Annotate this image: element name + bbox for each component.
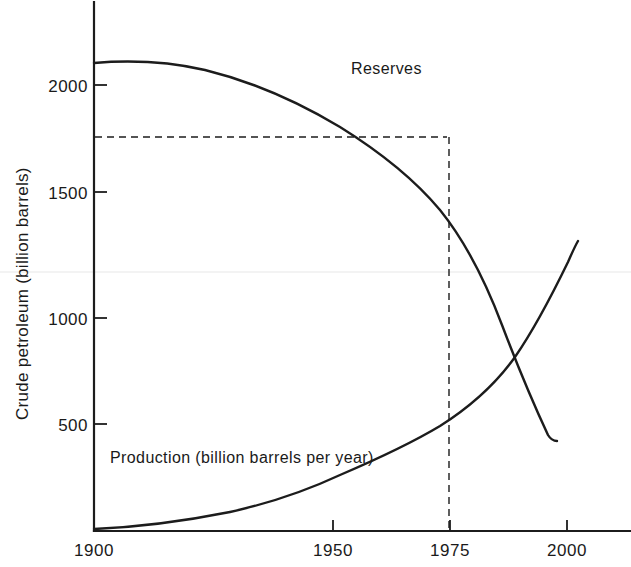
series-curve-reserves [94, 62, 557, 441]
y-axis-title: Crude petroleum (billion barrels) [13, 167, 32, 420]
y-tick-label-500: 500 [58, 416, 88, 435]
x-tick-label-1950: 1950 [313, 541, 353, 560]
chart-figure: 2000 1500 1000 500 1900 1950 1975 2000 C… [0, 0, 631, 567]
y-tick-label-2000: 2000 [48, 77, 88, 96]
chart-svg: 2000 1500 1000 500 1900 1950 1975 2000 C… [0, 0, 631, 567]
x-tick-label-1975: 1975 [430, 541, 470, 560]
y-tick-label-1500: 1500 [48, 184, 88, 203]
series-curve-production [94, 241, 578, 529]
y-tick-label-1000: 1000 [48, 310, 88, 329]
series-label-production: Production (billion barrels per year) [110, 449, 374, 466]
series-label-reserves: Reserves [351, 60, 422, 77]
x-tick-label-2000: 2000 [547, 541, 587, 560]
x-tick-label-1900: 1900 [74, 541, 114, 560]
